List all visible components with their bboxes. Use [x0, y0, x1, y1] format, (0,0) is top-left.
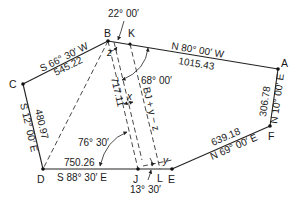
label-KL: BJ + y − z: [141, 86, 162, 132]
vertex-A: [276, 67, 280, 71]
label-D: D: [37, 173, 45, 185]
label-C: C: [9, 78, 17, 90]
vertex-J: [136, 167, 140, 171]
label-K: K: [128, 27, 135, 39]
angle-76: 76° 30′: [78, 137, 109, 148]
distance-DE: 750.26: [64, 157, 95, 168]
label-A: A: [281, 57, 288, 69]
vertex-B: [106, 39, 110, 43]
vertex-F: [268, 124, 272, 128]
offset-x: x: [126, 91, 133, 102]
vertex-K: [128, 42, 131, 45]
vertex-E: [170, 167, 174, 171]
label-B: B: [104, 27, 111, 39]
length-BJ: 717.11: [109, 76, 127, 108]
bearing-FA: N 10° 00′ E: [268, 73, 286, 125]
angle-13-arrow: [148, 170, 151, 180]
angle-13: 13° 30′: [130, 184, 161, 195]
traverse-diagram: A B C D E F J K L N 80° 00′ W 1015.43 S …: [0, 0, 300, 211]
construction-labels: 717.11 x BJ + y − z y z: [106, 47, 169, 166]
label-L: L: [157, 172, 163, 184]
angle-22: 22° 00′: [108, 8, 139, 19]
angle-22-arrow: [118, 21, 124, 40]
vertex-C: [21, 82, 25, 86]
vertex-D: [41, 167, 45, 171]
angle-68: 68° 00′: [141, 75, 172, 86]
angle-y-arc: [150, 158, 152, 166]
label-z: z: [106, 47, 112, 58]
label-y: y: [162, 155, 169, 166]
label-F: F: [268, 130, 274, 142]
label-E: E: [168, 173, 175, 185]
bearing-DE: S 88° 30′ E: [57, 172, 107, 183]
